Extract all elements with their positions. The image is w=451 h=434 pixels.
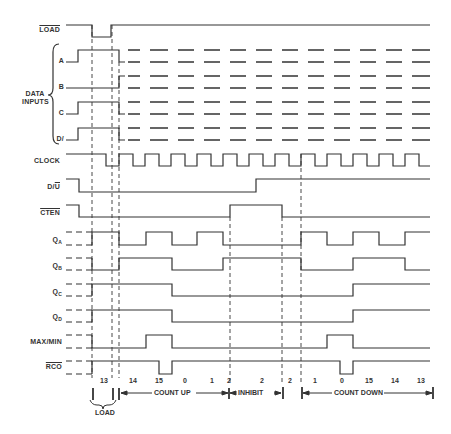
count-value: 1 bbox=[210, 377, 214, 384]
label-rco-text: RCO bbox=[46, 363, 62, 370]
load-section-marker bbox=[93, 388, 119, 400]
qd-waveform bbox=[66, 310, 430, 322]
section-inhibit: INHIBIT bbox=[237, 389, 264, 396]
label-qc: QC bbox=[10, 288, 62, 297]
label-cten-text: CTEN bbox=[40, 209, 60, 216]
load-brace bbox=[90, 400, 116, 409]
qc-waveform bbox=[66, 284, 430, 296]
count-value: 14 bbox=[391, 377, 399, 384]
timing-diagram bbox=[0, 0, 451, 434]
label-qd-sub: D bbox=[58, 316, 62, 322]
label-d: D/ bbox=[56, 135, 64, 142]
qa-waveform bbox=[66, 232, 430, 245]
qb-waveform bbox=[66, 258, 430, 270]
count-value: 14 bbox=[129, 377, 137, 384]
data-b-waveform bbox=[66, 76, 430, 88]
label-data-inputs-line1: DATA bbox=[22, 90, 48, 98]
cten-waveform bbox=[66, 205, 430, 217]
label-maxmin: MAX/MIN bbox=[4, 338, 62, 345]
section-count-down: COUNT DOWN bbox=[333, 389, 384, 396]
label-data-inputs: DATA INPUTS bbox=[22, 90, 48, 106]
count-value: 2 bbox=[288, 377, 292, 384]
label-a: A bbox=[56, 57, 64, 64]
data-c-waveform bbox=[66, 102, 430, 114]
label-qc-sub: C bbox=[58, 291, 62, 297]
count-value: 0 bbox=[183, 377, 187, 384]
label-load: LOAD bbox=[14, 26, 60, 33]
label-clock: CLOCK bbox=[10, 157, 60, 164]
count-value: 15 bbox=[365, 377, 373, 384]
label-cten: CTEN bbox=[10, 209, 60, 216]
count-value: 1 bbox=[313, 377, 317, 384]
down-up-waveform bbox=[66, 179, 430, 192]
label-d-part: D/ bbox=[47, 183, 54, 190]
section-load: LOAD bbox=[94, 409, 116, 416]
label-rco: RCO bbox=[10, 363, 62, 370]
label-b: B bbox=[56, 83, 64, 90]
label-u-part: U bbox=[55, 183, 60, 190]
label-qa: QA bbox=[10, 236, 62, 245]
label-down-up: D/U bbox=[10, 183, 60, 190]
count-value: 15 bbox=[155, 377, 163, 384]
label-data-inputs-line2: INPUTS bbox=[22, 98, 48, 106]
label-qb: QB bbox=[10, 262, 62, 271]
load-waveform bbox=[66, 25, 430, 37]
count-value: 13 bbox=[417, 377, 425, 384]
clock-waveform bbox=[66, 154, 430, 166]
count-value: 2 bbox=[227, 377, 231, 384]
count-value: 0 bbox=[340, 377, 344, 384]
data-d-waveform bbox=[66, 128, 430, 140]
rco-waveform bbox=[66, 361, 430, 374]
data-a-waveform bbox=[66, 50, 430, 62]
label-qd: QD bbox=[10, 313, 62, 322]
count-value: 13 bbox=[100, 377, 108, 384]
label-qa-sub: A bbox=[58, 239, 62, 245]
label-load-text: LOAD bbox=[39, 26, 60, 33]
label-c: C bbox=[56, 109, 64, 116]
count-value: 2 bbox=[260, 377, 264, 384]
maxmin-waveform bbox=[66, 335, 430, 348]
label-qb-sub: B bbox=[58, 265, 62, 271]
section-count-up: COUNT UP bbox=[153, 389, 192, 396]
